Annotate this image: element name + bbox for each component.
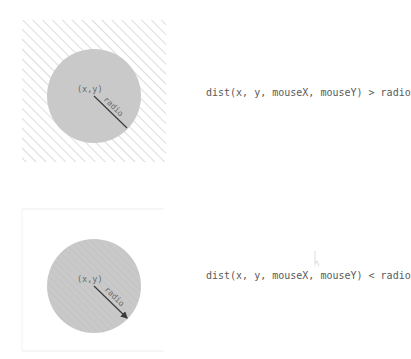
inside-diagram-canvas: (x,y) radio — [10, 203, 168, 357]
mouse-cursor-icon — [313, 250, 321, 268]
center-label: (x,y) — [77, 84, 103, 94]
center-label: (x,y) — [77, 274, 103, 284]
outside-expression: dist(x, y, mouseX, mouseY) > radio — [206, 87, 411, 98]
outside-diagram: (x,y) radio — [20, 18, 168, 164]
outside-diagram-canvas: (x,y) radio — [20, 18, 168, 164]
inside-diagram: (x,y) radio — [10, 203, 168, 357]
inside-expression: dist(x, y, mouseX, mouseY) < radio — [206, 270, 411, 281]
